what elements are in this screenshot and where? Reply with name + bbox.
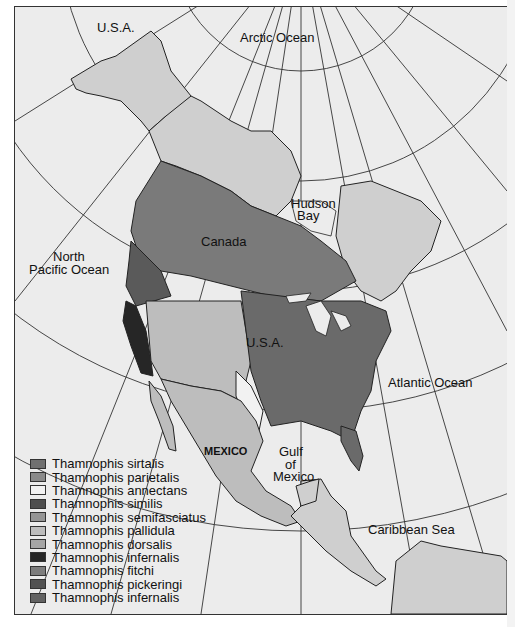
legend-item: Thamnophis sirtalis	[30, 457, 206, 470]
legend: Thamnophis sirtalis Thamnophis parietali…	[30, 457, 206, 604]
label-atlantic-ocean: Atlantic Ocean	[388, 376, 473, 390]
legend-swatch	[30, 539, 46, 549]
florida	[341, 426, 363, 471]
legend-item: Thamnophis parietalis	[30, 470, 206, 483]
legend-label: Thamnophis annectans	[52, 484, 187, 497]
legend-swatch	[30, 512, 46, 522]
label-gulf-3: Mexico	[273, 470, 314, 484]
label-north-pacific-2: Pacific Ocean	[29, 263, 109, 277]
legend-swatch	[30, 459, 46, 469]
legend-label: Thamnophis sirtalis	[52, 457, 164, 470]
legend-swatch	[30, 552, 46, 562]
legend-item: Thamnophis infernalis	[30, 551, 206, 564]
legend-item: Thamnophis dorsalis	[30, 537, 206, 550]
legend-swatch	[30, 593, 46, 603]
map-frame: U.S.A. Arctic Ocean Hudson Bay Canada No…	[14, 6, 508, 615]
legend-label: Thamnophis infernalis	[52, 591, 179, 604]
legend-item: Thamnophis infernalis	[30, 591, 206, 604]
label-caribbean-sea: Caribbean Sea	[368, 523, 455, 537]
legend-label: Thamnophis pallidula	[52, 524, 175, 537]
legend-label: Thamnophis infernalis	[52, 551, 179, 564]
label-arctic-ocean: Arctic Ocean	[240, 31, 314, 45]
legend-swatch	[30, 566, 46, 576]
legend-item: Thamnophis annectans	[30, 484, 206, 497]
label-hudson-bay-2: Bay	[297, 209, 319, 223]
legend-label: Thamnophis fitchi	[52, 564, 154, 577]
legend-label: Thamnophis semifasciatus	[52, 511, 206, 524]
page-edge	[507, 0, 515, 627]
legend-item: Thamnophis semifasciatus	[30, 511, 206, 524]
label-usa-alaska: U.S.A.	[97, 21, 135, 35]
legend-swatch	[30, 579, 46, 589]
legend-label: Thamnophis similis	[52, 497, 163, 510]
label-usa: U.S.A.	[246, 336, 284, 350]
legend-swatch	[30, 499, 46, 509]
legend-label: Thamnophis pickeringi	[52, 578, 182, 591]
legend-item: Thamnophis pallidula	[30, 524, 206, 537]
south-america	[391, 541, 507, 614]
legend-swatch	[30, 472, 46, 482]
legend-label: Thamnophis parietalis	[52, 471, 179, 484]
label-mexico: MEXICO	[204, 444, 247, 458]
legend-item: Thamnophis fitchi	[30, 564, 206, 577]
legend-swatch	[30, 485, 46, 495]
legend-item: Thamnophis similis	[30, 497, 206, 510]
legend-swatch	[30, 526, 46, 536]
legend-label: Thamnophis dorsalis	[52, 538, 172, 551]
western-us	[146, 301, 251, 401]
label-canada: Canada	[201, 235, 247, 249]
legend-item: Thamnophis pickeringi	[30, 578, 206, 591]
